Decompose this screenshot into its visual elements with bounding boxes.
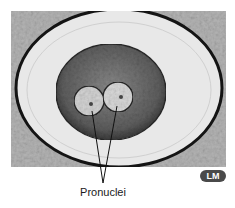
pointer-line-left (92, 111, 103, 183)
pointer-line-right (103, 106, 117, 183)
lm-badge: LM (200, 170, 226, 182)
pronuclei-label: Pronuclei (70, 186, 136, 199)
micrograph-figure: Pronuclei LM (0, 0, 235, 208)
